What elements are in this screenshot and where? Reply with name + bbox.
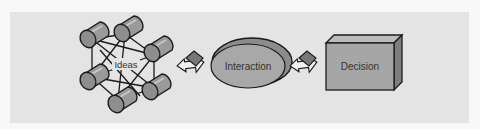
ideas-label: Ideas xyxy=(114,59,137,70)
idea-cylinder-6 xyxy=(105,87,137,116)
idea-cylinder-2 xyxy=(111,16,143,45)
ideas-interaction-decision-diagram: Ideas Interaction Decision xyxy=(0,0,480,129)
idea-cylinder-1 xyxy=(77,22,109,51)
interaction-ellipse: Interaction xyxy=(211,38,292,88)
interaction-label: Interaction xyxy=(225,61,272,72)
idea-cylinder-5 xyxy=(139,74,171,103)
ideas-network: Ideas xyxy=(77,16,173,116)
decision-label: Decision xyxy=(341,61,379,72)
decision-box: Decision xyxy=(326,35,402,90)
arrow-right-icon xyxy=(289,51,318,75)
arrow-right-icon xyxy=(176,51,205,75)
idea-cylinder-3 xyxy=(141,36,173,65)
